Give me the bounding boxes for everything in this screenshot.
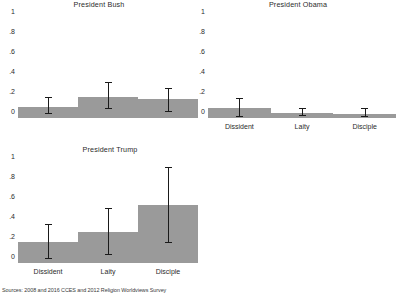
y-tick-label: .4 xyxy=(9,213,18,220)
y-tick-label: .2 xyxy=(199,88,208,95)
error-cap-top xyxy=(105,208,112,209)
y-tick-label: .6 xyxy=(199,48,208,55)
error-cap-top xyxy=(299,108,306,109)
source-note: Sources: 2008 and 2016 CCES and 2012 Rel… xyxy=(2,287,166,293)
plot-region-obama: 0.2.4.6.81 DissidentLaityDisciple xyxy=(208,18,396,118)
y-tick-label: 0 xyxy=(201,108,208,115)
error-cap-top xyxy=(45,224,52,225)
y-tick-label: 1 xyxy=(11,8,18,15)
error-cap-top xyxy=(236,98,243,99)
y-tick-label: .4 xyxy=(199,68,208,75)
error-cap-top xyxy=(45,97,52,98)
error-bar-obama-dissident xyxy=(239,99,240,117)
panel-title-trump: President Trump xyxy=(0,145,220,154)
error-cap-bottom xyxy=(105,254,112,255)
y-tick-label: 1 xyxy=(11,153,18,160)
y-tick-label: 1 xyxy=(201,8,208,15)
y-tick-label: .6 xyxy=(9,48,18,55)
error-bar-bush-disciple xyxy=(168,89,169,112)
error-cap-top xyxy=(165,167,172,168)
panel-president-obama: President Obama 0.2.4.6.81 DissidentLait… xyxy=(198,0,398,146)
plot-region-bush: 0.2.4.6.81 xyxy=(18,18,198,118)
y-tick-label: 0 xyxy=(11,253,18,260)
y-tick-label: .8 xyxy=(9,173,18,180)
error-cap-bottom xyxy=(361,116,368,117)
error-cap-top xyxy=(361,108,368,109)
error-bar-trump-laity xyxy=(108,209,109,256)
y-tick-label: .2 xyxy=(9,233,18,240)
y-tick-label: .6 xyxy=(9,193,18,200)
y-tick-label: .2 xyxy=(9,88,18,95)
error-bar-trump-disciple xyxy=(168,168,169,243)
error-bar-trump-dissident xyxy=(48,225,49,259)
error-cap-bottom xyxy=(45,113,52,114)
x-tick-label-disciple: Disciple xyxy=(156,268,181,275)
panel-president-trump: President Trump 0.2.4.6.81 DissidentLait… xyxy=(0,145,220,292)
x-tick-label-dissident: Dissident xyxy=(34,268,63,275)
x-tick-label-laity: Laity xyxy=(295,123,310,130)
y-tick-label: .8 xyxy=(199,28,208,35)
error-bar-bush-laity xyxy=(108,83,109,109)
x-tick-label-disciple: Disciple xyxy=(352,123,377,130)
error-cap-bottom xyxy=(45,258,52,259)
plot-region-trump: 0.2.4.6.81 DissidentLaityDisciple xyxy=(18,163,198,263)
y-tick-label: .8 xyxy=(9,28,18,35)
x-tick-label-laity: Laity xyxy=(101,268,116,275)
error-cap-top xyxy=(165,88,172,89)
error-cap-bottom xyxy=(299,115,306,116)
y-tick-label: 0 xyxy=(11,108,18,115)
y-tick-label: .4 xyxy=(9,68,18,75)
error-cap-bottom xyxy=(165,111,172,112)
error-bar-bush-dissident xyxy=(48,98,49,114)
error-cap-bottom xyxy=(105,108,112,109)
x-tick-label-dissident: Dissident xyxy=(225,123,254,130)
panel-title-bush: President Bush xyxy=(0,0,198,9)
error-cap-bottom xyxy=(236,116,243,117)
panel-president-bush: President Bush 0.2.4.6.81 xyxy=(0,0,198,146)
error-cap-top xyxy=(105,82,112,83)
error-cap-bottom xyxy=(165,242,172,243)
panel-title-obama: President Obama xyxy=(198,0,398,9)
